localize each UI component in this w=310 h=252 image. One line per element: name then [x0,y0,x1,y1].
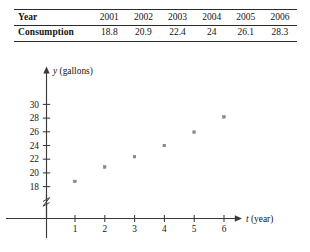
row-header-consumption: Consumption [14,25,92,41]
y-tick-label-22: 22 [30,154,40,164]
plot-svg: 18 20 22 24 26 28 30 1 2 3 4 5 [0,58,310,252]
y-axis-title: y (gallons) [52,66,93,77]
cell-year-2002: 2002 [126,10,160,26]
y-tick-group: 18 20 22 24 26 28 30 [30,100,50,192]
cell-consumption-2003: 22.4 [160,25,194,41]
y-tick-label-24: 24 [30,141,40,151]
x-tick-label-3: 3 [132,224,137,234]
x-axis-title: t (year) [246,214,273,225]
data-point [74,180,77,183]
x-tick-group: 1 2 3 4 5 6 [73,215,227,234]
cell-consumption-2006: 28.3 [263,25,297,41]
x-axis-unit: (year) [251,214,273,225]
cell-year-2001: 2001 [92,10,126,26]
cell-consumption-2002: 20.9 [126,25,160,41]
svg-text:y (gallons): y (gallons) [52,66,93,77]
table-row-year: Year 2001 2002 2003 2004 2005 2006 [14,10,297,26]
data-point [133,155,136,158]
cell-consumption-2005: 26.1 [229,25,263,41]
cell-consumption-2001: 18.8 [92,25,126,41]
cell-year-2005: 2005 [229,10,263,26]
data-point [223,116,226,119]
y-tick-label-20: 20 [30,168,40,178]
x-tick-label-6: 6 [222,224,227,234]
x-tick-label-1: 1 [73,224,78,234]
scatter-plot: 18 20 22 24 26 28 30 1 2 3 4 5 [0,58,310,252]
data-point [163,144,166,147]
cell-consumption-2004: 24 [195,25,229,41]
y-tick-label-18: 18 [30,182,40,192]
row-header-year: Year [14,10,92,26]
x-tick-label-4: 4 [162,224,167,234]
svg-text:t (year): t (year) [246,214,273,225]
y-axis-unit: (gallons) [60,66,93,77]
consumption-data-table: Year 2001 2002 2003 2004 2005 2006 Consu… [14,9,297,42]
data-point-group [74,116,226,183]
y-axis-arrow [43,67,49,74]
x-tick-label-2: 2 [102,224,107,234]
data-point [103,166,106,169]
y-axis [43,67,49,239]
x-axis-arrow [235,215,242,221]
cell-year-2004: 2004 [195,10,229,26]
cell-year-2003: 2003 [160,10,194,26]
cell-year-2006: 2006 [263,10,297,26]
table: Year 2001 2002 2003 2004 2005 2006 Consu… [14,9,297,42]
y-tick-label-26: 26 [30,127,40,137]
y-tick-label-30: 30 [30,100,40,110]
table-row-consumption: Consumption 18.8 20.9 22.4 24 26.1 28.3 [14,25,297,41]
x-axis [6,215,242,221]
y-tick-label-28: 28 [30,113,40,123]
x-tick-label-5: 5 [192,224,197,234]
data-point [193,131,196,134]
